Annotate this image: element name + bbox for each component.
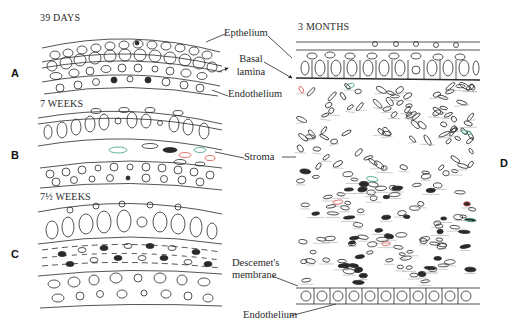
label-endothelium-top: Endothelium bbox=[228, 88, 282, 100]
panel-label-a: A bbox=[11, 67, 19, 79]
panel-c-drawing bbox=[38, 201, 222, 308]
panel-label-b: B bbox=[11, 149, 19, 161]
label-basal-lamina-line2: lamina bbox=[232, 66, 270, 78]
stroma-d-nuclei bbox=[295, 81, 478, 285]
panel-d-drawing bbox=[264, 36, 480, 316]
label-descemets-line1: Descemet's bbox=[232, 257, 279, 269]
stage-title-a: 39 DAYS bbox=[40, 12, 80, 24]
panel-label-c: C bbox=[11, 248, 19, 260]
panel-b-drawing bbox=[38, 108, 244, 191]
stage-title-b: 7 WEEKS bbox=[40, 98, 83, 110]
label-epithelium: Epthelium bbox=[224, 27, 268, 39]
stage-title-c: 7½ WEEKS bbox=[40, 191, 91, 203]
label-descemets-line2: membrane bbox=[232, 269, 276, 281]
panel-label-d: D bbox=[500, 157, 508, 169]
label-stroma: Stroma bbox=[244, 151, 274, 163]
label-endothelium-bottom: Endothelium bbox=[243, 309, 297, 321]
panel-a-drawing bbox=[42, 34, 228, 96]
label-basal-lamina-line1: Basal bbox=[234, 53, 268, 65]
stage-title-d: 3 MONTHS bbox=[298, 21, 349, 33]
